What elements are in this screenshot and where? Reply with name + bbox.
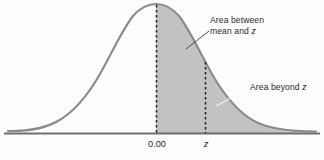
annotation-beyond-z-symbol: z (302, 82, 306, 92)
distribution-curve-svg (0, 0, 324, 160)
annotation-beyond-prefix: Area beyond (250, 82, 302, 92)
annotation-area-beyond-z: Area beyond z (250, 82, 307, 93)
axis-tick-label-mean: 0.00 (148, 139, 166, 149)
axis-tick-label-z: z (204, 139, 209, 149)
annotation-between-line1: Area between (210, 15, 264, 26)
annotation-between-line2-prefix: mean and (210, 26, 251, 36)
annotation-area-between-mean-and-z: Area between mean and z (210, 15, 264, 36)
normal-distribution-figure: Area between mean and z Area beyond z 0.… (0, 0, 324, 160)
annotation-between-z-symbol: z (251, 26, 255, 36)
annotation-between-line2: mean and z (210, 26, 264, 37)
